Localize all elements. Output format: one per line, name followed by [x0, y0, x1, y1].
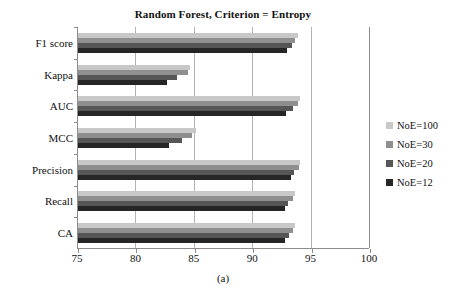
bar-group — [78, 154, 369, 186]
bar-group — [78, 186, 369, 218]
legend-entry[interactable]: NoE=30 — [386, 135, 462, 154]
x-axis-tick-label: 90 — [247, 252, 258, 264]
bar — [78, 111, 286, 116]
y-axis-category-label: AUC — [1, 100, 73, 112]
y-axis-category-label: Kappa — [1, 69, 73, 81]
x-axis-tick-label: 100 — [361, 252, 378, 264]
bar-group — [78, 122, 369, 154]
y-axis-tick — [74, 217, 78, 218]
figure-caption: (a) — [77, 272, 369, 284]
x-axis-tick-label: 85 — [188, 252, 199, 264]
bar-group — [78, 27, 369, 59]
x-axis-tick-label: 80 — [130, 252, 141, 264]
y-axis-category-label: Precision — [1, 164, 73, 176]
bar-group — [78, 59, 369, 91]
y-axis-category-label: CA — [1, 227, 73, 239]
legend-swatch-icon — [386, 122, 393, 129]
bar-group — [78, 217, 369, 249]
chart-title: Random Forest, Criterion = Entropy — [77, 8, 369, 20]
y-axis-tick — [74, 59, 78, 60]
bar — [78, 206, 285, 211]
y-axis-tick — [74, 154, 78, 155]
x-axis-tick-label: 75 — [72, 252, 83, 264]
gridline — [369, 27, 370, 248]
legend-label: NoE=30 — [397, 139, 433, 150]
y-axis-category-label: MCC — [1, 132, 73, 144]
chart-legend: NoE=100NoE=30NoE=20NoE=12 — [386, 116, 462, 192]
legend-label: NoE=12 — [397, 177, 433, 188]
legend-swatch-icon — [386, 141, 393, 148]
legend-entry[interactable]: NoE=20 — [386, 154, 462, 173]
y-axis-category-label: Recall — [1, 195, 73, 207]
legend-entry[interactable]: NoE=100 — [386, 116, 462, 135]
x-axis-tick-label: 95 — [305, 252, 316, 264]
bar — [78, 238, 285, 243]
legend-entry[interactable]: NoE=12 — [386, 173, 462, 192]
y-axis-tick — [74, 90, 78, 91]
y-axis-tick — [74, 186, 78, 187]
legend-label: NoE=100 — [397, 120, 438, 131]
bar — [78, 175, 291, 180]
legend-label: NoE=20 — [397, 158, 433, 169]
bar — [78, 80, 167, 85]
figure-panel: Random Forest, Criterion = Entropy F1 sc… — [0, 0, 465, 304]
legend-swatch-icon — [386, 160, 393, 167]
bar — [78, 48, 287, 53]
y-axis-labels: F1 scoreKappaAUCMCCPrecisionRecallCA — [0, 27, 73, 249]
y-axis-category-label: F1 score — [1, 37, 73, 49]
x-axis-labels: 7580859095100 — [77, 252, 369, 268]
bar-group — [78, 90, 369, 122]
y-axis-tick — [74, 27, 78, 28]
plot-area — [77, 27, 369, 249]
bar — [78, 143, 169, 148]
y-axis-tick — [74, 122, 78, 123]
legend-swatch-icon — [386, 179, 393, 186]
